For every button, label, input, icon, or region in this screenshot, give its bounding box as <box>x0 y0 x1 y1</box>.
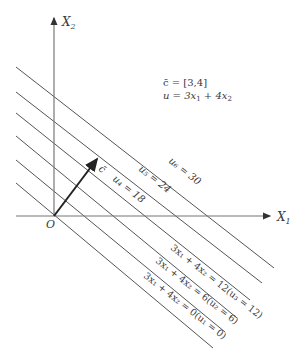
x2-axis-label: X2 <box>61 15 76 31</box>
origin-label: O <box>46 218 55 231</box>
vector-c-arrow <box>54 159 97 216</box>
iso-lines <box>16 67 274 348</box>
iso-label-u6: u₆ = 30 <box>167 155 204 187</box>
iso-label-u4: u₄ = 18 <box>111 173 148 205</box>
iso-line-u5 <box>16 92 262 283</box>
iso-line-u1 <box>16 183 213 348</box>
x1-axis-label: X1 <box>276 210 291 226</box>
objective-contour-diagram: X2 X1 O c̄ = [3,4] u = 3x1 + 4x2 c̄ u₆ =… <box>0 0 300 358</box>
vector-c-label: c̄ <box>97 163 109 175</box>
legend-objective: u = 3x1 + 4x2 <box>163 90 232 103</box>
legend-c-vector: c̄ = [3,4] <box>163 77 207 88</box>
